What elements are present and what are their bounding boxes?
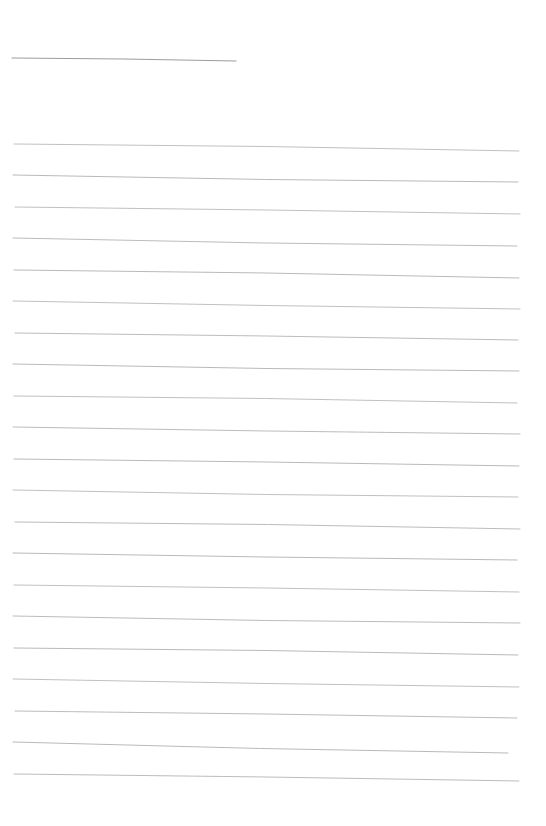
- ruled-line: [13, 238, 517, 246]
- ruled-line: [13, 490, 518, 497]
- title-underline-stroke: [12, 58, 236, 61]
- ruled-line: [15, 711, 517, 718]
- lined-paper-page: [0, 0, 546, 826]
- ruled-line: [14, 459, 519, 466]
- ruled-line: [13, 427, 520, 434]
- ruled-line: [14, 270, 519, 278]
- ruled-line: [14, 396, 517, 403]
- ruled-line: [14, 774, 519, 781]
- ruled-line: [14, 144, 519, 151]
- ruled-line: [13, 301, 520, 309]
- ruled-line: [13, 364, 519, 371]
- ruled-line: [13, 742, 508, 753]
- ruled-lines-group: [13, 144, 520, 781]
- ruled-line: [14, 585, 519, 592]
- ruled-line: [13, 553, 517, 560]
- ruled-line: [15, 522, 520, 529]
- ruled-line: [15, 333, 518, 340]
- ruled-line: [13, 679, 519, 687]
- lined-paper-svg: [0, 0, 546, 826]
- ruled-line: [13, 616, 520, 623]
- ruled-line: [13, 175, 518, 182]
- title-underline: [12, 58, 236, 61]
- ruled-line: [15, 207, 520, 214]
- ruled-line: [14, 648, 518, 655]
